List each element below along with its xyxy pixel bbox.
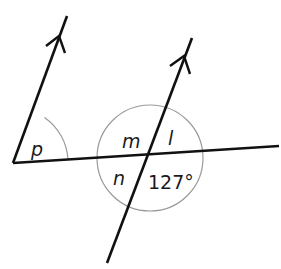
label-p: p: [30, 138, 43, 160]
right-parallel-line: [107, 38, 192, 263]
label-l: l: [168, 127, 174, 149]
label-n: n: [113, 167, 125, 189]
intersection-angle-circle: [97, 105, 203, 211]
angle-p-arc: [45, 118, 69, 160]
label-m: m: [122, 130, 141, 152]
label-127-degrees: 127°: [148, 171, 194, 193]
angle-diagram: p m l n 127°: [0, 0, 281, 269]
